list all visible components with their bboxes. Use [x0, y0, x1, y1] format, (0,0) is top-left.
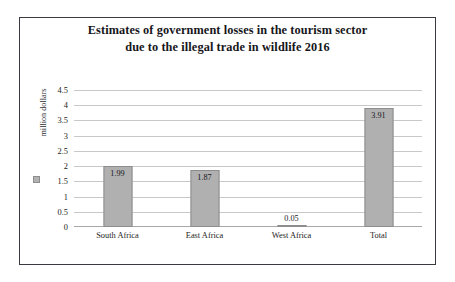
chart-figure: Estimates of government losses in the to…	[0, 0, 455, 282]
y-tick-0: 0	[22, 223, 68, 232]
x-tick-east-africa: East Africa	[161, 231, 248, 240]
plot-area: 1.99 1.87 0.05 3.91	[74, 90, 422, 227]
bar-total[interactable]	[364, 108, 393, 227]
chart-title-line-1: Estimates of government losses in the to…	[30, 22, 425, 39]
bar-west-africa[interactable]	[277, 225, 306, 227]
y-tick-4: 4	[22, 101, 68, 110]
y-tick-3.5: 3.5	[22, 116, 68, 125]
y-tick-1.5: 1.5	[22, 177, 68, 186]
y-tick-2: 2	[22, 162, 68, 171]
x-axis-tick-labels: South Africa East Africa West Africa Tot…	[74, 231, 422, 247]
bar-series: 1.99 1.87 0.05 3.91	[74, 90, 422, 227]
bar-value-east-africa: 1.87	[197, 173, 211, 182]
bar-value-south-africa: 1.99	[110, 169, 124, 178]
y-tick-3: 3	[22, 131, 68, 140]
bar-slot-west-africa: 0.05	[248, 90, 335, 227]
x-tick-south-africa: South Africa	[74, 231, 161, 240]
bar-value-west-africa: 0.05	[284, 214, 298, 223]
x-tick-total: Total	[335, 231, 422, 240]
bar-slot-south-africa: 1.99	[74, 90, 161, 227]
y-tick-2.5: 2.5	[22, 146, 68, 155]
chart-title: Estimates of government losses in the to…	[30, 22, 425, 56]
y-tick-0.5: 0.5	[22, 207, 68, 216]
y-tick-4.5: 4.5	[22, 86, 68, 95]
bar-value-total: 3.91	[371, 111, 385, 120]
bar-slot-total: 3.91	[335, 90, 422, 227]
y-tick-1: 1	[22, 192, 68, 201]
x-tick-west-africa: West Africa	[248, 231, 335, 240]
chart-title-line-2: due to the illegal trade in wildlife 201…	[30, 39, 425, 56]
bar-slot-east-africa: 1.87	[161, 90, 248, 227]
y-axis-tick-labels: 0 0.5 1 1.5 2 2.5 3 3.5 4 4.5	[22, 90, 68, 227]
